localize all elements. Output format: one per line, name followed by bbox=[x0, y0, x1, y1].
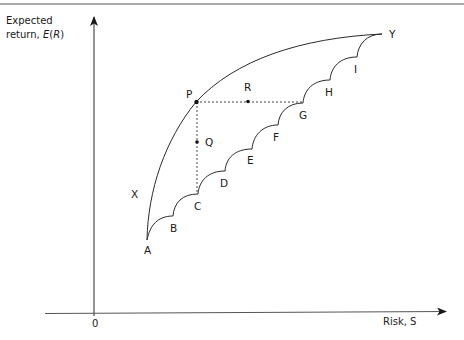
label-B: B bbox=[170, 222, 177, 234]
label-R: R bbox=[244, 81, 251, 93]
label-A: A bbox=[144, 244, 152, 256]
label-Y: Y bbox=[388, 28, 396, 40]
efficient-frontier-curve bbox=[147, 34, 382, 240]
label-C: C bbox=[194, 200, 201, 212]
diagram-canvas: Expected return, E(R) P Q R X Y A B C bbox=[0, 0, 464, 340]
label-Q: Q bbox=[205, 136, 213, 148]
label-D: D bbox=[220, 177, 228, 189]
point-P bbox=[194, 100, 198, 104]
label-I: I bbox=[354, 63, 357, 75]
point-R bbox=[246, 100, 250, 104]
label-E: E bbox=[247, 154, 254, 166]
label-G: G bbox=[299, 109, 307, 121]
scalloped-boundary-curve bbox=[147, 34, 382, 240]
origin-label: 0 bbox=[92, 318, 98, 329]
label-X: X bbox=[131, 188, 138, 200]
x-axis bbox=[45, 312, 446, 314]
point-Q bbox=[195, 140, 199, 144]
x-axis-label: Risk, S bbox=[383, 316, 416, 327]
frontier-diagram: P Q R X Y A B C D E F G H I 0 Risk, S bbox=[0, 0, 464, 340]
label-H: H bbox=[325, 86, 333, 98]
label-P: P bbox=[186, 88, 192, 100]
label-F: F bbox=[273, 131, 279, 143]
